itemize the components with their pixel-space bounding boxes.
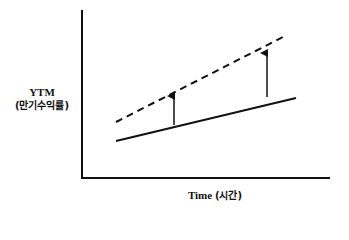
shifted-curve-dashed-line: [116, 35, 287, 122]
original-curve-solid-line: [116, 98, 296, 141]
y-axis-label-korean: (만기수익률): [4, 99, 80, 112]
x-axis-label-time: Time: [188, 189, 212, 201]
x-axis-label: Time (시간): [150, 187, 280, 202]
y-axis-label-ytm: YTM: [4, 86, 80, 99]
y-axis-label: YTM (만기수익률): [4, 86, 80, 112]
x-axis-label-korean: (시간): [215, 190, 242, 201]
